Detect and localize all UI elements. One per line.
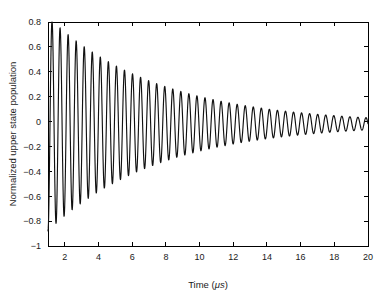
y-tick-label: 0 — [36, 117, 41, 127]
x-tick-label: 2 — [62, 252, 67, 262]
y-tick-label: 0.6 — [28, 42, 41, 52]
x-axis-label: Time (μs) — [188, 279, 228, 290]
x-tick-label: 6 — [130, 252, 135, 262]
x-tick-label: 14 — [262, 252, 272, 262]
y-tick-label: −0.8 — [23, 216, 41, 226]
y-tick-label: 0.4 — [28, 67, 41, 77]
x-tick-label: 8 — [163, 252, 168, 262]
y-tick-label: 0.8 — [28, 17, 41, 27]
y-axis-label: Normalized upper state population — [7, 62, 18, 207]
x-tick-label: 10 — [195, 252, 205, 262]
y-tick-label: −0.2 — [23, 142, 41, 152]
x-tick-label: 12 — [228, 252, 238, 262]
y-tick-label: −1 — [31, 241, 41, 251]
damped-oscillation-plot: 2468101214161820 −1−0.8−0.6−0.4−0.200.20… — [0, 0, 385, 300]
x-tick-label: 20 — [363, 252, 373, 262]
x-tick-label: 16 — [296, 252, 306, 262]
y-tick-label: 0.2 — [28, 92, 41, 102]
chart-figure: 2468101214161820 −1−0.8−0.6−0.4−0.200.20… — [0, 0, 385, 300]
y-tick-label: −0.4 — [23, 167, 41, 177]
x-tick-label: 18 — [329, 252, 339, 262]
y-tick-label: −0.6 — [23, 192, 41, 202]
x-tick-label: 4 — [96, 252, 101, 262]
